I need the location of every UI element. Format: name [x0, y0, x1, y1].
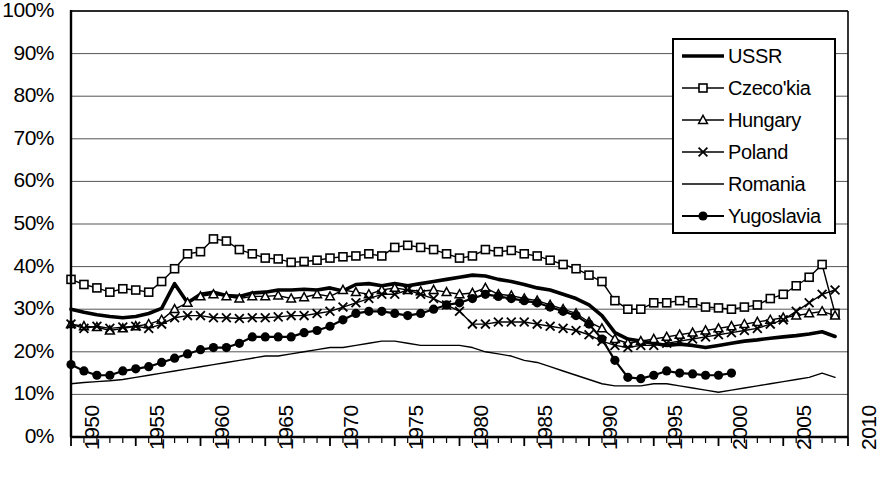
- legend-marker-triangle-open-icon: [680, 109, 726, 131]
- x-axis-tick-label: 2005: [792, 405, 816, 450]
- legend-marker-line-icon: [680, 173, 726, 195]
- x-axis-tick-label: 2000: [728, 405, 752, 450]
- x-axis-tick-label: 2010: [857, 405, 881, 450]
- legend-item-label: Yugoslavia: [728, 205, 821, 228]
- x-axis-tick-label: 1950: [80, 405, 104, 450]
- legend-item-label: Hungary: [728, 109, 801, 132]
- legend-item-hungary[interactable]: Hungary: [674, 104, 834, 136]
- legend-item-label: USSR: [728, 45, 782, 68]
- x-axis-tick-label: 1965: [274, 405, 298, 450]
- legend-marker-square-open-icon: [680, 77, 726, 99]
- legend-item-romania[interactable]: Romania: [674, 168, 834, 200]
- legend-marker-line-icon: [680, 45, 726, 67]
- legend-marker-x-icon: [680, 141, 726, 163]
- legend-item-label: Romania: [728, 173, 805, 196]
- x-axis-tick-label: 1960: [210, 405, 234, 450]
- x-axis-tick-label: 1995: [663, 405, 687, 450]
- x-axis-tick-label: 1990: [598, 405, 622, 450]
- legend-marker-circle-filled-icon: [680, 205, 726, 227]
- x-axis-tick-label: 1975: [404, 405, 428, 450]
- legend-item-label: Poland: [728, 141, 788, 164]
- x-axis-tick-label: 1980: [469, 405, 493, 450]
- x-axis-tick-label: 1970: [339, 405, 363, 450]
- x-axis-tick-label: 1985: [533, 405, 557, 450]
- x-axis-tick-label: 1955: [145, 405, 169, 450]
- legend-item-poland[interactable]: Poland: [674, 136, 834, 168]
- series-marker: [698, 211, 707, 220]
- series-marker: [699, 84, 707, 92]
- legend-item-label: Czeco'kia: [728, 77, 810, 100]
- legend-item-ussr[interactable]: USSR: [674, 40, 834, 72]
- chart-legend: USSRCzeco'kiaHungaryPolandRomaniaYugosla…: [672, 38, 836, 234]
- legend-item-yugoslavia[interactable]: Yugoslavia: [674, 200, 834, 232]
- legend-item-czeco-kia[interactable]: Czeco'kia: [674, 72, 834, 104]
